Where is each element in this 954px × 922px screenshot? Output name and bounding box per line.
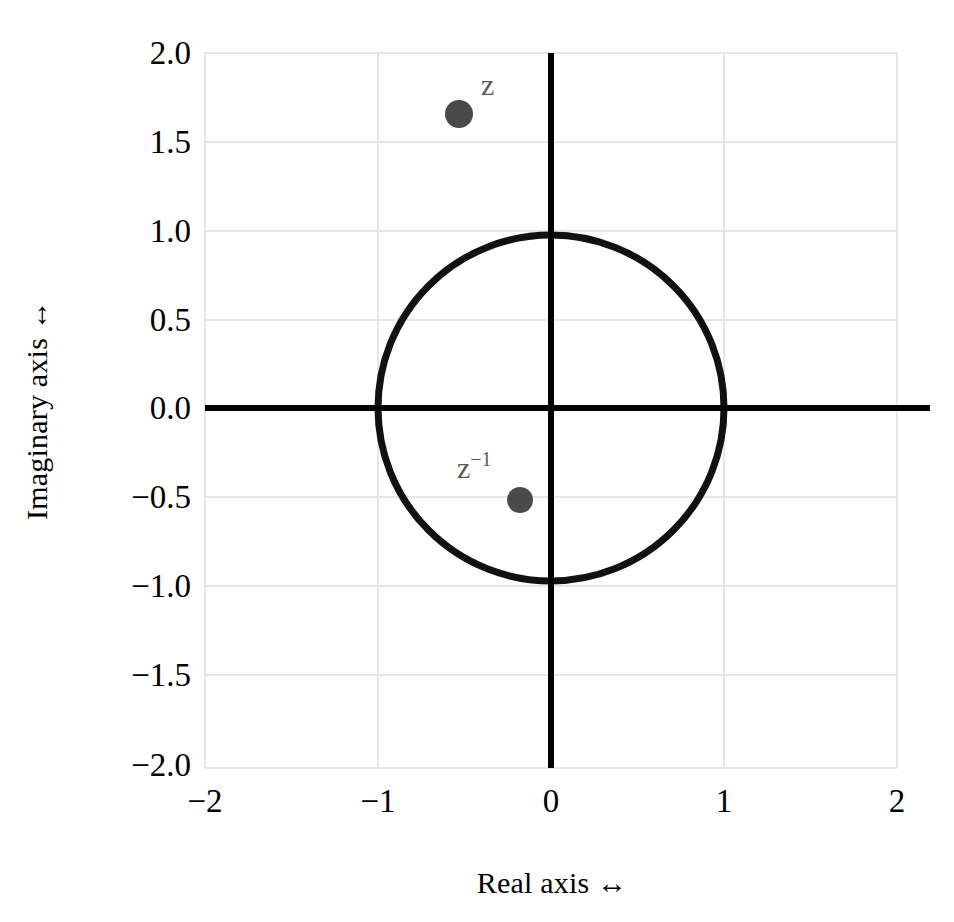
x-tick-2: 2 — [889, 785, 906, 818]
x-tick-0: 0 — [543, 785, 560, 818]
x-tick-1: 1 — [716, 785, 733, 818]
x-tick--1: −1 — [360, 785, 395, 818]
x-axis-title: Real axis ↔ — [205, 866, 899, 900]
x-axis-tick-labels: −2 −1 0 1 2 — [0, 0, 954, 922]
x-tick--2: −2 — [187, 785, 222, 818]
y-axis-title: Imaginary axis ↔ — [14, 10, 60, 810]
pole-zero-plot-figure: z z−1 2.0 1.5 1.0 0.5 0.0 −0.5 −1.0 −1.5… — [0, 0, 954, 922]
